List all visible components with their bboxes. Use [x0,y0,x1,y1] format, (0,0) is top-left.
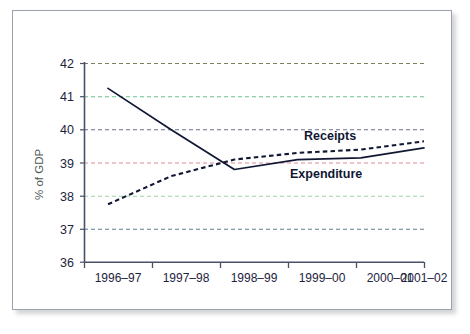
y-tick-label-41: 41 [60,90,74,104]
y-axis-title: % of GDP [33,149,45,200]
series-label-receipts: Receipts [304,129,356,143]
gridline-group [84,64,424,230]
x-tick-label-3: 1999–00 [299,271,346,285]
y-tick-label-38: 38 [60,190,74,204]
y-tick-label-39: 39 [60,157,74,171]
y-tick-label-37: 37 [60,223,74,237]
figure-root: 42 41 40 39 38 37 36 % of GDP 1996–97 19… [0,0,470,334]
series-line-receipts [108,141,424,204]
x-tick-label-2: 1998–99 [231,271,278,285]
series-line-expenditure [108,88,424,169]
line-chart: 42 41 40 39 38 37 36 % of GDP 1996–97 19… [0,0,470,334]
x-tick-label-1: 1997–98 [163,271,210,285]
series-label-expenditure: Expenditure [290,167,362,181]
y-tick-label-42: 42 [60,57,74,71]
plot-area-wrapper: 42 41 40 39 38 37 36 % of GDP 1996–97 19… [0,0,470,334]
y-tick-label-36: 36 [60,256,74,270]
y-tick-label-40: 40 [60,123,74,137]
x-tick-label-0: 1996–97 [95,271,142,285]
x-tick-label-5: 2001–02 [401,271,448,285]
